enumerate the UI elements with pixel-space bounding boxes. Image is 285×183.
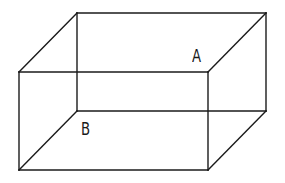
point-label-b: B: [81, 121, 90, 138]
depth-edge-top-right: [208, 13, 266, 72]
cuboid-diagram: A B: [0, 0, 285, 183]
point-label-a: A: [192, 48, 201, 65]
depth-edge-top-left: [19, 13, 77, 72]
depth-edge-bottom-left: [19, 111, 77, 170]
cuboid-wireframe: [0, 0, 285, 183]
depth-edge-bottom-right: [208, 111, 266, 170]
